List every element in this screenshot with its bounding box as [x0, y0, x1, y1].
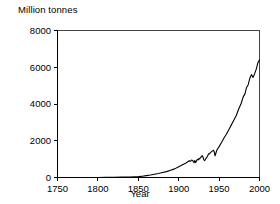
data-series-line	[58, 60, 260, 178]
y-tick-label: 6000	[30, 62, 51, 73]
y-tick-label: 4000	[30, 98, 51, 109]
y-tick-label-group: 02000400060008000	[30, 25, 51, 183]
x-axis-title: Year	[0, 188, 280, 199]
chart-page: Million tonnes 02000400060008000 1750180…	[0, 0, 280, 204]
y-tick-label: 8000	[30, 25, 51, 36]
line-chart-plot: 02000400060008000 1750180018501900195020…	[0, 0, 280, 204]
y-tick-mark-group	[54, 31, 58, 178]
y-tick-label: 0	[46, 172, 51, 183]
y-tick-label: 2000	[30, 135, 51, 146]
